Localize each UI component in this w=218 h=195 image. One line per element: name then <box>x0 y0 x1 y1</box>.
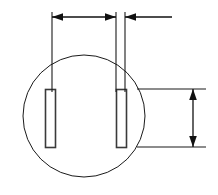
horizontal-slot-width-dimension <box>125 13 172 21</box>
left-slot <box>46 90 56 148</box>
arrow-down-icon <box>189 136 197 147</box>
vertical-slot-length-dimension <box>189 89 197 147</box>
arrow-left-icon <box>52 13 63 21</box>
horizontal-slot-spacing-dimension <box>52 13 116 21</box>
technical-drawing-canvas <box>0 0 218 195</box>
technical-drawing-svg <box>0 0 218 195</box>
arrow-left-icon <box>125 13 136 21</box>
right-slot <box>117 90 127 148</box>
arrow-right-icon <box>105 13 116 21</box>
arrow-up-icon <box>189 89 197 100</box>
